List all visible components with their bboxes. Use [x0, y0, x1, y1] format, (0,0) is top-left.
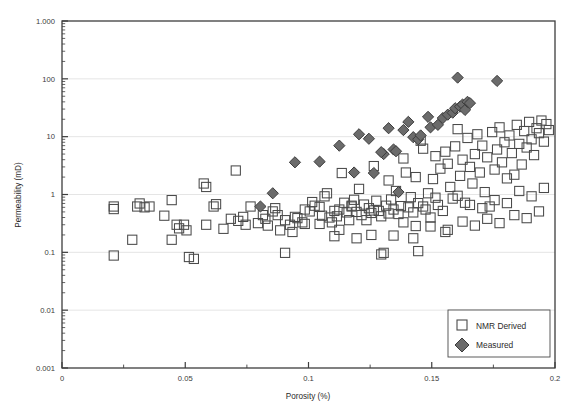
- y-tick-label: 1: [51, 190, 55, 199]
- legend-label-measured: Measured: [476, 340, 514, 350]
- y-tick-label: 1.000: [36, 17, 55, 26]
- y-tick-label: 10: [47, 132, 55, 141]
- x-tick-label: 0.1: [303, 374, 314, 383]
- y-tick-label: 0.01: [40, 306, 55, 315]
- y-tick-label: 0.1: [44, 248, 55, 257]
- x-tick-label: 0.15: [424, 374, 439, 383]
- y-tick-label: 100: [42, 75, 55, 84]
- x-axis-title: Porosity (%): [286, 392, 331, 401]
- x-tick-label: 0.05: [178, 374, 193, 383]
- chart-canvas: 0.0010.010.11101001.00000.050.10.150.2 P…: [0, 0, 577, 416]
- legend: NMR Derived Measured: [448, 310, 550, 357]
- scatter-chart: 0.0010.010.11101001.00000.050.10.150.2 P…: [0, 0, 577, 416]
- x-tick-label: 0.2: [550, 374, 561, 383]
- y-axis-title: Permeability (mD): [14, 162, 23, 228]
- y-tick-label: 0.001: [36, 364, 55, 373]
- legend-label-nmr-derived: NMR Derived: [476, 321, 527, 331]
- x-tick-label: 0: [60, 374, 64, 383]
